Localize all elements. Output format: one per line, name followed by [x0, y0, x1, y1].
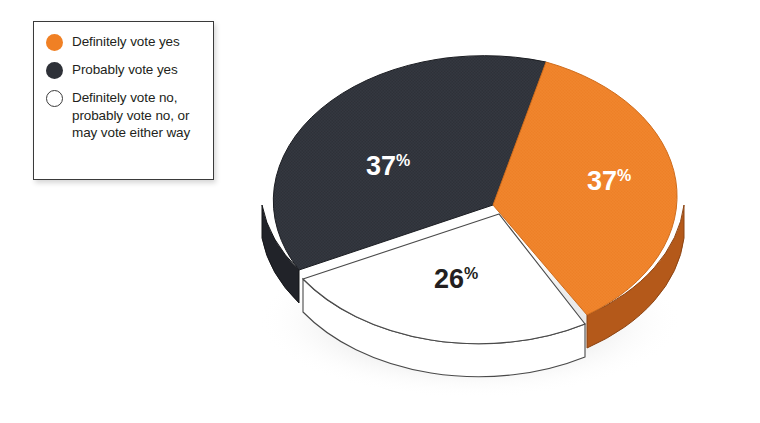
pie-label-white-suffix: % — [464, 265, 478, 282]
pie-label-dark-suffix: % — [396, 152, 410, 169]
legend-swatch-white-circle-icon — [46, 90, 63, 107]
pie-chart-figure: 37% 37% 26% Definitely vote yes Probably… — [0, 0, 760, 423]
legend-item-vote-no-or-undecided[interactable]: Definitely vote no, probably vote no, or… — [46, 89, 203, 142]
pie-label-dark-value: 37 — [366, 151, 396, 181]
pie-label-white-value: 26 — [434, 264, 464, 294]
legend-swatch-orange-circle-icon — [46, 34, 63, 51]
chart-legend: Definitely vote yes Probably vote yes De… — [33, 21, 214, 180]
pie-label-orange-suffix: % — [617, 167, 631, 184]
legend-item-definitely-vote-yes[interactable]: Definitely vote yes — [46, 33, 203, 51]
legend-label-probably-vote-yes: Probably vote yes — [72, 61, 178, 79]
pie-label-orange-value: 37 — [587, 166, 617, 196]
legend-item-probably-vote-yes[interactable]: Probably vote yes — [46, 61, 203, 79]
legend-label-vote-no-or-undecided: Definitely vote no, probably vote no, or… — [72, 89, 203, 142]
legend-label-definitely-vote-yes: Definitely vote yes — [72, 33, 180, 51]
legend-swatch-dark-circle-icon — [46, 62, 63, 79]
